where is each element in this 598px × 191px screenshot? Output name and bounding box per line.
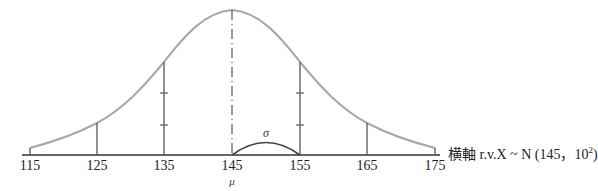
tick-label-125: 125	[87, 158, 108, 174]
axis-caption-text: 横軸 r.v.X ~ N (145，10	[448, 147, 588, 162]
tick-label-115: 115	[20, 158, 40, 174]
tick-label-175: 175	[425, 158, 446, 174]
sigma-label: σ	[263, 126, 269, 141]
tick-label-145: 145	[222, 158, 243, 174]
tick-label-135: 135	[154, 158, 175, 174]
sigma-arc	[232, 143, 300, 156]
mu-label: μ	[229, 175, 235, 187]
tick-label-165: 165	[357, 158, 378, 174]
axis-caption-suffix: )	[593, 147, 598, 162]
tick-label-155: 155	[290, 158, 311, 174]
axis-caption: 横軸 r.v.X ~ N (145，102)	[448, 143, 598, 163]
